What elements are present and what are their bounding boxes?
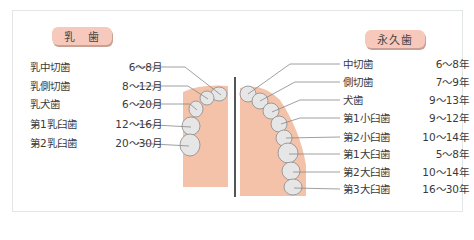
tooth-name: 中切歯 bbox=[343, 57, 373, 71]
tooth-first-molar bbox=[278, 143, 298, 163]
eruption-age: 6〜8年 bbox=[399, 57, 469, 71]
primary-teeth-title: 乳 歯 bbox=[64, 28, 100, 44]
primary-teeth-badge: 乳 歯 bbox=[52, 27, 112, 45]
eruption-age: 16〜30年 bbox=[399, 182, 469, 196]
eruption-age: 12〜16月 bbox=[90, 117, 162, 131]
tooth-name: 乳側切歯 bbox=[30, 79, 70, 93]
eruption-age: 10〜14年 bbox=[399, 130, 469, 144]
tooth-name: 第1乳臼歯 bbox=[30, 117, 77, 131]
tooth-name: 乳犬歯 bbox=[30, 97, 60, 111]
eruption-age: 20〜30月 bbox=[90, 136, 162, 150]
permanent-teeth-title: 永久歯 bbox=[377, 31, 413, 47]
tooth-name: 第1大臼歯 bbox=[343, 147, 390, 161]
tooth-name: 第2乳臼歯 bbox=[30, 136, 77, 150]
eruption-age: 9〜13年 bbox=[399, 93, 469, 107]
tooth-name: 側切歯 bbox=[343, 75, 373, 89]
tooth-primary-first-molar bbox=[182, 117, 200, 135]
eruption-age: 9〜12年 bbox=[399, 111, 469, 125]
eruption-age: 8〜12月 bbox=[90, 79, 162, 93]
eruption-age: 6〜8月 bbox=[90, 60, 162, 74]
center-divider bbox=[234, 77, 236, 197]
permanent-teeth-badge: 永久歯 bbox=[365, 30, 425, 48]
tooth-name: 第3大臼歯 bbox=[343, 182, 390, 196]
tooth-third-molar bbox=[284, 179, 302, 195]
tooth-name: 第2小臼歯 bbox=[343, 130, 390, 144]
tooth-name: 犬歯 bbox=[343, 93, 363, 107]
tooth-first-premolar bbox=[271, 116, 287, 132]
eruption-age: 7〜9年 bbox=[399, 75, 469, 89]
tooth-second-molar bbox=[282, 162, 300, 180]
tooth-primary-second-molar bbox=[180, 134, 200, 156]
tooth-name: 第2大臼歯 bbox=[343, 165, 390, 179]
tooth-name: 乳中切歯 bbox=[30, 60, 70, 74]
eruption-age: 5〜8年 bbox=[399, 147, 469, 161]
eruption-age: 6〜20月 bbox=[90, 97, 162, 111]
tooth-name: 第1小臼歯 bbox=[343, 111, 390, 125]
eruption-age: 10〜14年 bbox=[399, 165, 469, 179]
